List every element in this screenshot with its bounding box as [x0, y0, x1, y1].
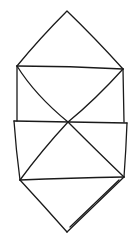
bottom-right-edge [67, 177, 124, 232]
band-bottom-edge [20, 177, 124, 180]
folded-shape-sketch [0, 0, 140, 239]
lower-triangle-fold [20, 122, 124, 180]
top-triangle [17, 11, 123, 69]
band-top-edge [14, 121, 127, 123]
upper-v-fold [17, 66, 123, 122]
bottom-right-inner-edge [70, 180, 119, 227]
band-right-side [124, 123, 127, 177]
upper-horizontal-fold [17, 66, 123, 69]
bottom-left-edge [20, 180, 67, 232]
upper-right-side [123, 69, 124, 122]
band-left-side [14, 121, 20, 180]
